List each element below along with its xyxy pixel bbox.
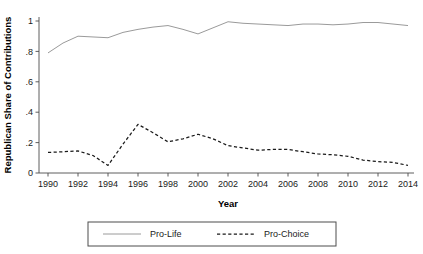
data-series-group — [48, 22, 408, 166]
chart-figure: Republican Share of Contributions 0.2.4.… — [0, 0, 423, 254]
x-tick-label: 1994 — [98, 179, 118, 189]
y-tick-labels: 0.2.4.6.81 — [25, 16, 33, 178]
y-tick-label: .4 — [25, 107, 33, 117]
x-tick-label: 2014 — [398, 179, 418, 189]
y-tick-label: 0 — [28, 168, 33, 178]
x-tick-label: 1990 — [38, 179, 58, 189]
series-line-pro-life — [48, 22, 408, 53]
y-tick-label: .2 — [25, 138, 33, 148]
x-axis-title: Year — [218, 198, 238, 209]
legend-label-pro-choice: Pro-Choice — [264, 229, 309, 239]
y-axis-title: Republican Share of Contributions — [2, 17, 13, 174]
x-tick-label: 1996 — [128, 179, 148, 189]
axis-lines — [36, 17, 415, 177]
x-tick-labels: 1990199219941996199820002002200420062008… — [38, 179, 418, 189]
x-tick-label: 2008 — [308, 179, 328, 189]
y-tick-label: .6 — [25, 77, 33, 87]
x-tick-label: 2000 — [188, 179, 208, 189]
y-tick-label: .8 — [25, 47, 33, 57]
x-tick-label: 2012 — [368, 179, 388, 189]
y-axis-title-group: Republican Share of Contributions — [2, 17, 13, 174]
x-tick-label: 1998 — [158, 179, 178, 189]
line-chart: Republican Share of Contributions 0.2.4.… — [0, 0, 423, 254]
x-tick-label: 2010 — [338, 179, 358, 189]
y-tick-label: 1 — [28, 16, 33, 26]
legend-label-pro-life: Pro-Life — [150, 229, 182, 239]
series-line-pro-choice — [48, 124, 408, 165]
legend: Pro-LifePro-Choice — [88, 222, 336, 246]
x-axis-title-group: Year — [218, 198, 238, 209]
x-tick-label: 2002 — [218, 179, 238, 189]
x-tick-label: 2004 — [248, 179, 268, 189]
x-tick-label: 1992 — [68, 179, 88, 189]
x-tick-label: 2006 — [278, 179, 298, 189]
